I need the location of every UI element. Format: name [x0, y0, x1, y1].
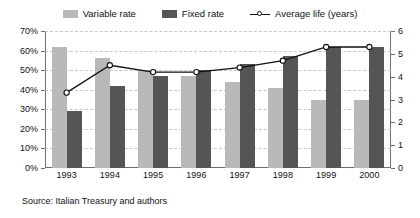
y-axis-right-tick — [391, 168, 395, 169]
x-axis-tick-label: 1994 — [88, 169, 131, 182]
line-data-point — [237, 65, 242, 70]
y-axis-left-label: 30% — [20, 105, 38, 114]
y-axis-right-label: 4 — [398, 72, 403, 81]
y-axis-right-tick — [391, 122, 395, 123]
line-data-point — [194, 70, 199, 75]
y-axis-right-tick — [391, 54, 395, 55]
y-axis-left-label: 10% — [20, 144, 38, 153]
y-axis-right-label: 1 — [398, 141, 403, 150]
y-axis-right-tick — [391, 100, 395, 101]
line-data-point — [367, 44, 372, 49]
legend-item-fixed-rate: Fixed rate — [162, 9, 224, 19]
y-axis-right-label: 5 — [398, 49, 403, 58]
y-axis-right-label: 0 — [398, 164, 403, 173]
y-axis-right-label: 3 — [398, 95, 403, 104]
y-axis-right-tick — [391, 145, 395, 146]
legend-item-variable-rate: Variable rate — [63, 9, 136, 19]
y-axis-left-label: 50% — [20, 66, 38, 75]
line-data-point — [324, 44, 329, 49]
legend-label-fixed-rate: Fixed rate — [182, 9, 224, 19]
y-axis-right-tick — [391, 77, 395, 78]
y-axis-left-label: 70% — [20, 27, 38, 36]
square-swatch-icon — [162, 10, 177, 18]
y-axis-right-label: 2 — [398, 118, 403, 127]
line-path — [67, 47, 370, 93]
line-data-point — [107, 63, 112, 68]
y-axis-right-label: 6 — [398, 27, 403, 36]
y-axis-left-label: 40% — [20, 85, 38, 94]
average-life-line-series — [45, 31, 391, 168]
y-axis-left-label: 60% — [20, 46, 38, 55]
y-axis-right-tick — [391, 31, 395, 32]
line-data-point — [280, 58, 285, 63]
x-axis-tick-labels: 19931994199519961997199819992000 — [45, 169, 391, 182]
line-data-point — [151, 70, 156, 75]
x-axis-tick-label: 1997 — [218, 169, 261, 182]
y-axis-left-label: 20% — [20, 124, 38, 133]
plot-inner: 0%10%20%30%40%50%60%70% 0123456 — [45, 31, 391, 168]
x-axis-tick-label: 1999 — [305, 169, 348, 182]
x-axis-tick-label: 1996 — [175, 169, 218, 182]
legend-label-average-life: Average life (years) — [275, 9, 357, 19]
legend-item-average-life: Average life (years) — [250, 9, 357, 19]
square-swatch-icon — [63, 10, 78, 18]
x-axis-tick-label: 1995 — [132, 169, 175, 182]
chart-legend: Variable rate Fixed rate Average life (y… — [0, 6, 420, 22]
line-data-point — [64, 90, 69, 95]
source-note: Source: Italian Treasury and authors — [22, 196, 167, 207]
line-marker-icon — [250, 10, 270, 19]
legend-label-variable-rate: Variable rate — [83, 9, 136, 19]
y-axis-left-label: 0% — [25, 164, 38, 173]
x-axis-tick-label: 2000 — [348, 169, 391, 182]
plot-area: 0%10%20%30%40%50%60%70% 0123456 19931994… — [0, 24, 420, 182]
x-axis-tick-label: 1998 — [261, 169, 304, 182]
x-axis-tick-label: 1993 — [45, 169, 88, 182]
chart-container: Variable rate Fixed rate Average life (y… — [0, 0, 420, 218]
